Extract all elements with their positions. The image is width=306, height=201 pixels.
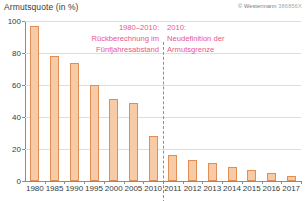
y-tick-label-0: 0: [0, 177, 21, 186]
bar-2011: [168, 155, 177, 181]
copyright-notice: © Westermann 386856X: [238, 3, 302, 9]
bar-2010: [149, 136, 158, 181]
y-tick-label-20: 20: [0, 145, 21, 154]
bar-2012: [188, 160, 197, 181]
y-tick-mark-100: [22, 21, 25, 22]
x-tick-label-2017: 2017: [282, 184, 300, 193]
y-tick-mark-80: [22, 53, 25, 54]
x-tick-label-1980: 1980: [26, 184, 44, 193]
bar-1980: [30, 26, 39, 181]
x-tick-label-2014: 2014: [223, 184, 241, 193]
bar-1995: [90, 85, 99, 181]
bar-2005: [129, 103, 138, 181]
plot-area: [25, 21, 301, 181]
x-tick-label-2005: 2005: [125, 184, 143, 193]
x-tick-label-2012: 2012: [184, 184, 202, 193]
x-tick-label-1985: 1985: [46, 184, 64, 193]
x-tick-label-1995: 1995: [85, 184, 103, 193]
chart-page: Armutsquote (in %) © Westermann 386856X …: [0, 0, 306, 201]
x-tick-label-2013: 2013: [203, 184, 221, 193]
annotation-recalculation: 1980–2010: Rückberechnung im Fünfjahresa…: [91, 23, 159, 55]
copyright-code: 386856X: [278, 3, 302, 9]
x-tick-mark-2017: [301, 181, 302, 184]
page-title: Armutsquote (in %): [4, 2, 79, 12]
y-tick-mark-0: [22, 181, 25, 182]
y-tick-mark-20: [22, 149, 25, 150]
annotation-redefinition: 2010: Neudefinition der Armutsgrenze: [167, 23, 224, 55]
divider-line: [163, 42, 164, 201]
x-tick-label-2015: 2015: [243, 184, 261, 193]
y-tick-mark-40: [22, 117, 25, 118]
bar-2017: [287, 176, 296, 181]
bar-2015: [247, 170, 256, 181]
y-tick-mark-60: [22, 85, 25, 86]
bar-2014: [228, 167, 237, 181]
copyright-text: © Westermann: [238, 3, 276, 9]
y-tick-label-100: 100: [0, 17, 21, 26]
bar-2016: [267, 173, 276, 181]
x-tick-label-1990: 1990: [65, 184, 83, 193]
bar-2013: [208, 163, 217, 181]
x-tick-label-2000: 2000: [105, 184, 123, 193]
gridline-100: [25, 21, 301, 22]
y-tick-label-40: 40: [0, 113, 21, 122]
bar-1985: [50, 56, 59, 181]
x-tick-label-2010: 2010: [144, 184, 162, 193]
x-tick-label-2016: 2016: [263, 184, 281, 193]
x-tick-label-2011: 2011: [164, 184, 181, 193]
bar-1990: [70, 63, 79, 181]
bar-2000: [109, 99, 118, 181]
y-tick-label-80: 80: [0, 49, 21, 58]
y-tick-label-60: 60: [0, 81, 21, 90]
